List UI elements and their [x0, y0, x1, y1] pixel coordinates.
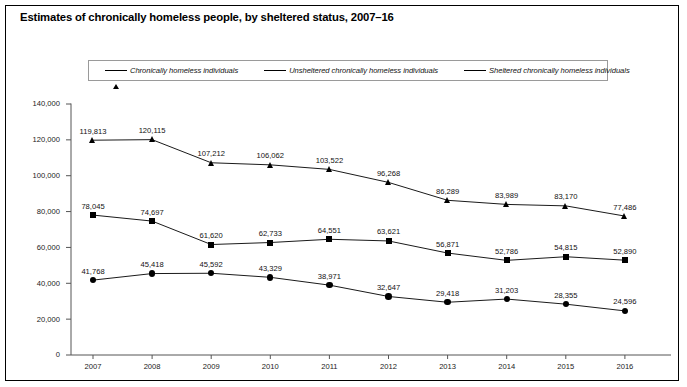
x-axis-tick-label: 2011	[306, 362, 352, 371]
data-value-label: 107,212	[188, 149, 234, 158]
y-axis-tick-label: 80,000	[14, 207, 60, 216]
x-axis-tick-label: 2010	[247, 362, 293, 371]
triangle-data-point	[621, 213, 627, 219]
y-axis-tick-label: 0	[14, 350, 60, 359]
circle-data-point	[504, 296, 510, 302]
y-axis-tick-label: 20,000	[14, 315, 60, 324]
circle-data-point	[622, 308, 628, 314]
square-data-point	[90, 212, 96, 218]
square-data-point	[622, 257, 628, 263]
circle-data-point	[267, 274, 273, 280]
y-axis-tick-label: 140,000	[14, 99, 60, 108]
square-data-point	[563, 254, 569, 260]
x-axis-tick-label: 2013	[425, 362, 471, 371]
y-axis-tick-label: 40,000	[14, 279, 60, 288]
circle-data-point	[385, 293, 391, 299]
data-value-label: 86,289	[425, 187, 471, 196]
square-data-point	[267, 240, 273, 246]
data-value-label: 120,115	[129, 126, 175, 135]
data-value-label: 96,268	[366, 169, 412, 178]
triangle-data-point	[503, 201, 509, 207]
square-data-point	[445, 250, 451, 256]
data-value-label: 31,203	[484, 286, 530, 295]
data-value-label: 83,170	[543, 192, 589, 201]
data-value-label: 103,522	[306, 156, 352, 165]
data-value-label: 28,355	[543, 291, 589, 300]
circle-data-point	[326, 282, 332, 288]
data-value-label: 63,621	[366, 227, 412, 236]
x-axis-tick-label: 2008	[129, 362, 175, 371]
data-value-label: 41,768	[70, 267, 116, 276]
square-data-point	[504, 257, 510, 263]
x-axis-tick-label: 2015	[543, 362, 589, 371]
footnote-clipped	[22, 379, 662, 386]
data-value-label: 29,418	[425, 289, 471, 298]
data-value-label: 77,486	[602, 203, 648, 212]
data-value-label: 56,871	[425, 240, 471, 249]
y-axis-tick-label: 60,000	[14, 243, 60, 252]
data-value-label: 64,551	[306, 226, 352, 235]
data-value-label: 62,733	[247, 229, 293, 238]
x-axis-tick-label: 2007	[70, 362, 116, 371]
triangle-data-point	[444, 197, 450, 203]
circle-data-point	[149, 270, 155, 276]
data-value-label: 61,620	[188, 231, 234, 240]
triangle-data-point	[562, 203, 568, 209]
data-value-label: 78,045	[70, 202, 116, 211]
data-value-label: 119,813	[70, 127, 116, 136]
data-value-label: 74,697	[129, 208, 175, 217]
triangle-data-point	[149, 136, 155, 142]
data-value-label: 52,890	[602, 247, 648, 256]
triangle-data-point	[89, 137, 95, 143]
triangle-data-point	[385, 179, 391, 185]
x-axis-tick-label: 2012	[366, 362, 412, 371]
square-data-point	[149, 218, 155, 224]
y-axis-tick-label: 120,000	[14, 135, 60, 144]
chart-plot-area: 020,00040,00060,00080,000100,000120,0001…	[0, 0, 687, 387]
data-value-label: 43,329	[247, 264, 293, 273]
data-value-label: 45,592	[188, 260, 234, 269]
triangle-data-point	[326, 166, 332, 172]
data-value-label: 54,815	[543, 243, 589, 252]
x-axis-tick-label: 2009	[188, 362, 234, 371]
x-axis-tick-label: 2016	[602, 362, 648, 371]
data-value-label: 52,786	[484, 247, 530, 256]
x-axis-tick-label: 2014	[484, 362, 530, 371]
square-data-point	[208, 242, 214, 248]
square-data-point	[386, 238, 392, 244]
square-data-point	[326, 236, 332, 242]
data-value-label: 24,596	[602, 297, 648, 306]
data-value-label: 32,647	[366, 283, 412, 292]
triangle-data-point	[208, 160, 214, 166]
data-value-label: 83,989	[484, 191, 530, 200]
data-value-label: 45,418	[129, 260, 175, 269]
y-axis-tick-label: 100,000	[14, 171, 60, 180]
data-value-label: 106,062	[247, 151, 293, 160]
data-value-label: 38,971	[306, 272, 352, 281]
triangle-data-point	[267, 162, 273, 168]
